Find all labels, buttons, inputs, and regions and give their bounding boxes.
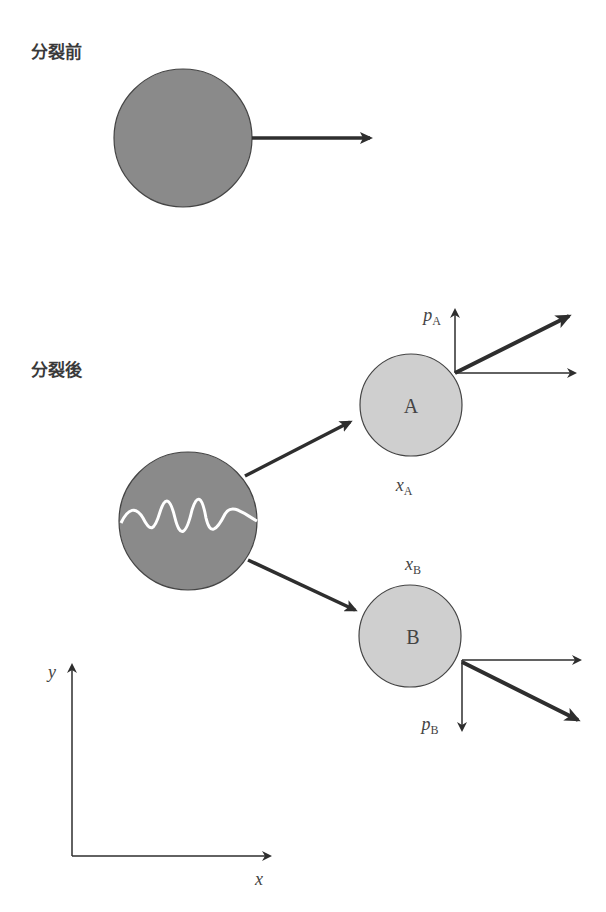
momentum-label-a: pA <box>421 305 441 328</box>
particle-a-label: A <box>404 395 419 417</box>
particle-a: A <box>360 354 462 456</box>
particle-b: B <box>359 585 461 687</box>
y-axis-label: y <box>46 662 56 682</box>
position-label-a: xA <box>395 475 413 498</box>
particle-b-label: B <box>406 626 419 648</box>
parent-particle-after <box>119 452 257 590</box>
parent-particle-before <box>114 69 252 207</box>
arrow-to-b <box>248 560 355 610</box>
p-a-vector <box>455 316 569 373</box>
momentum-label-b: pB <box>419 714 438 737</box>
x-axis-label: x <box>254 869 263 889</box>
split-diagram: A xA pA B xB pB y x <box>0 0 606 912</box>
p-b-vector <box>462 662 578 720</box>
arrow-to-a <box>245 422 350 476</box>
coordinate-axes: y x <box>46 662 270 889</box>
position-label-b: xB <box>404 554 421 577</box>
